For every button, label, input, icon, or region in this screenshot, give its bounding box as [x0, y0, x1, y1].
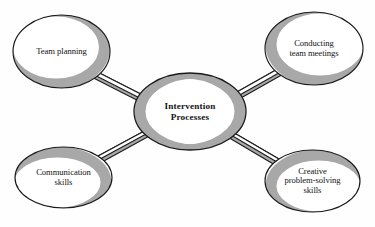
node-conducting-team-meetings[interactable] — [265, 8, 369, 85]
diagram-graphic — [0, 0, 375, 227]
node-creative-problem-solving-skills[interactable] — [265, 150, 366, 217]
diagram-canvas: Team planning Conducting team meetings C… — [0, 0, 375, 227]
node-communication-skills[interactable] — [9, 147, 112, 213]
node-team-planning[interactable] — [8, 11, 111, 88]
